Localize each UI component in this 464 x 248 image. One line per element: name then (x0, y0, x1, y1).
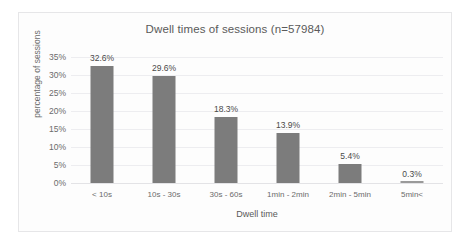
bar[interactable] (339, 164, 362, 183)
bar-group: 32.6%< 10s (71, 57, 133, 183)
x-axis-category-label: 1min - 2min (267, 190, 309, 199)
chart-title: Dwell times of sessions (n=57984) (19, 23, 451, 35)
bar-value-label: 0.3% (402, 169, 421, 179)
bar-group: 13.9%1min - 2min (257, 57, 319, 183)
x-axis-category-label: 5min< (401, 190, 423, 199)
y-axis-tick-label: 30% (49, 70, 66, 80)
bar-value-label: 5.4% (340, 151, 359, 161)
x-axis-category-label: < 10s (92, 190, 112, 199)
x-axis-category-label: 30s - 60s (210, 190, 243, 199)
y-axis-tick-label: 5% (54, 160, 66, 170)
bar[interactable] (401, 181, 424, 183)
bar[interactable] (153, 76, 176, 183)
gridline (71, 183, 443, 184)
x-axis-category-label: 10s - 30s (148, 190, 181, 199)
bar-group: 29.6%10s - 30s (133, 57, 195, 183)
bar[interactable] (277, 133, 300, 183)
x-axis-title: Dwell time (71, 209, 443, 219)
y-axis-tick-label: 25% (49, 88, 66, 98)
x-axis-category-label: 2min - 5min (329, 190, 371, 199)
bar-value-label: 32.6% (90, 53, 114, 63)
bar[interactable] (215, 117, 238, 183)
bar-value-label: 18.3% (214, 104, 238, 114)
y-axis-title: percentage of sessions (32, 12, 42, 136)
bar-value-label: 13.9% (276, 120, 300, 130)
bar-group: 5.4%2min - 5min (319, 57, 381, 183)
y-axis-tick-label: 35% (49, 52, 66, 62)
y-axis-tick-label: 20% (49, 106, 66, 116)
plot-area: 35%30%25%20%15%10%5%0% 32.6%< 10s29.6%10… (71, 57, 443, 183)
bar-value-label: 29.6% (152, 63, 176, 73)
y-axis-tick-label: 10% (49, 142, 66, 152)
bar[interactable] (91, 66, 114, 183)
y-axis-tick-label: 0% (54, 178, 66, 188)
bar-group: 0.3%5min< (381, 57, 443, 183)
y-axis-tick-label: 15% (49, 124, 66, 134)
chart-container: Dwell times of sessions (n=57984) percen… (18, 12, 452, 232)
bar-group: 18.3%30s - 60s (195, 57, 257, 183)
